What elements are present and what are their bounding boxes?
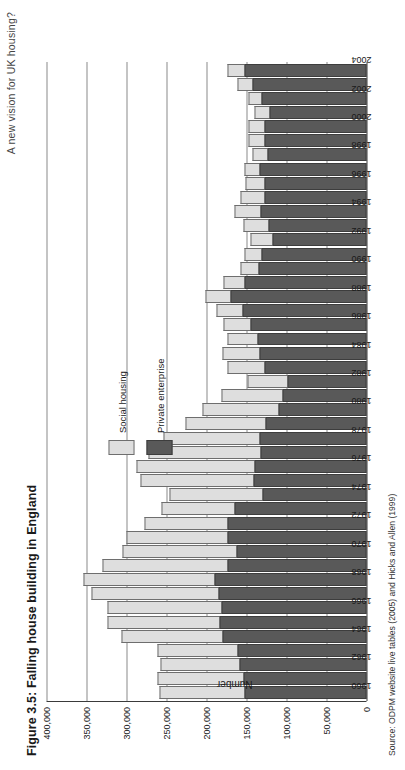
category-axis-tick-label: 2004 [351, 55, 371, 65]
bar-segment-social-housing [248, 120, 263, 133]
bar-segment-private-enterprise [259, 432, 366, 445]
plot-area: 050,000100,000150,000200,000250,000300,0… [46, 62, 366, 702]
bar-segment-private-enterprise [243, 672, 366, 685]
bar-column [46, 403, 366, 417]
category-axis-tick-label: 1998 [351, 140, 371, 150]
bar-segment-social-housing [122, 545, 236, 558]
bar-segment-social-housing [245, 177, 264, 190]
category-axis-tick-label: 1982 [351, 368, 371, 378]
bar-segment-private-enterprise [244, 64, 366, 77]
bar-segment-social-housing [243, 219, 268, 232]
bar-segment-private-enterprise [252, 78, 366, 91]
bar-segment-social-housing [227, 333, 257, 346]
bar-column [46, 77, 366, 91]
bar-segment-private-enterprise [214, 573, 366, 586]
bar-segment-private-enterprise [230, 290, 366, 303]
legend-label: Private enterprise [154, 359, 165, 433]
bar-column [46, 105, 366, 119]
bar-column [46, 190, 366, 204]
category-axis-tick-label: 2002 [351, 84, 371, 94]
value-axis-tick-label: 50,000 [321, 707, 331, 735]
bar-column [46, 91, 366, 105]
bar-column [46, 459, 366, 473]
bar-segment-social-housing [221, 389, 282, 402]
bar-segment-social-housing [102, 559, 227, 572]
bar-segment-social-housing [237, 78, 251, 91]
category-axis-tick-label: 1984 [351, 340, 371, 350]
category-axis-tick-label: 1966 [351, 596, 371, 606]
bar-column [46, 346, 366, 360]
bar-segment-private-enterprise [261, 248, 366, 261]
category-axis-tick-label: 1980 [351, 396, 371, 406]
bar-column [46, 360, 366, 374]
bar-segment-social-housing [240, 191, 264, 204]
bar-column [46, 233, 366, 247]
category-axis-tick-label: 2000 [351, 112, 371, 122]
bar-column [46, 672, 366, 686]
bar-segment-private-enterprise [250, 318, 366, 331]
bar-column [46, 474, 366, 488]
bar-column [46, 445, 366, 459]
value-axis-tick-label: 300,000 [121, 707, 131, 740]
bar-segment-social-housing [83, 573, 214, 586]
bar-column [46, 261, 366, 275]
category-axis-tick-label: 1962 [351, 652, 371, 662]
bar-segment-social-housing [160, 658, 239, 671]
bar-segment-social-housing [169, 488, 262, 501]
legend-swatch-private [146, 440, 172, 455]
bar-column [46, 205, 366, 219]
bar-segment-social-housing [244, 248, 262, 261]
bar-segment-social-housing [248, 134, 264, 147]
bar-segment-social-housing [140, 474, 254, 487]
chart-legend: Social housingPrivate enterprise [108, 359, 172, 455]
bar-segment-social-housing [223, 276, 244, 289]
category-axis-tick-label: 1990 [351, 254, 371, 264]
value-axis-tick-label: 400,000 [41, 707, 51, 740]
bar-segment-social-housing [136, 460, 254, 473]
bar-segment-social-housing [223, 318, 250, 331]
figure-title: Figure 3.5: Falling house building in En… [24, 485, 38, 756]
bar-segment-private-enterprise [264, 120, 366, 133]
bar-segment-private-enterprise [221, 602, 366, 615]
bar-column [46, 417, 366, 431]
running-head: A new vision for UK housing? [4, 0, 16, 770]
bar-column [46, 162, 366, 176]
category-axis-tick-label: 1972 [351, 510, 371, 520]
bar-segment-social-housing [248, 92, 262, 105]
bar-series-container [46, 62, 366, 701]
bar-segment-private-enterprise [253, 474, 366, 487]
category-axis-tick-label: 1960 [351, 681, 371, 691]
legend-item: Private enterprise [146, 359, 172, 455]
bar-segment-private-enterprise [259, 347, 366, 360]
value-axis-tick-label: 150,000 [241, 707, 251, 740]
bar-segment-private-enterprise [244, 276, 366, 289]
category-axis-tick-label: 1964 [351, 624, 371, 634]
bar-segment-social-housing [202, 403, 278, 416]
bar-column [46, 488, 366, 502]
bar-column [46, 544, 366, 558]
category-axis-tick-label: 1986 [351, 311, 371, 321]
bar-segment-social-housing [240, 262, 258, 275]
category-axis-tick-label: 1970 [351, 539, 371, 549]
bar-segment-social-housing [107, 616, 219, 629]
bar-segment-social-housing [216, 304, 242, 317]
bar-column [46, 530, 366, 544]
bar-segment-social-housing [126, 531, 227, 544]
bar-column [46, 275, 366, 289]
legend-swatch-social [108, 440, 134, 455]
bar-segment-private-enterprise [260, 446, 366, 459]
bar-segment-private-enterprise [257, 333, 366, 346]
value-axis-tick-label: 100,000 [281, 707, 291, 740]
bar-column [46, 318, 366, 332]
bar-column [46, 615, 366, 629]
bar-segment-private-enterprise [227, 517, 366, 530]
bar-segment-social-housing [227, 361, 264, 374]
bar-segment-social-housing [247, 375, 287, 388]
category-axis-tick-label: 1996 [351, 169, 371, 179]
bar-segment-private-enterprise [237, 644, 366, 657]
bar-segment-social-housing [157, 644, 237, 657]
bar-segment-social-housing [161, 502, 234, 515]
bar-column [46, 629, 366, 643]
category-axis-tick-label: 1968 [351, 567, 371, 577]
bar-segment-social-housing [244, 163, 259, 176]
